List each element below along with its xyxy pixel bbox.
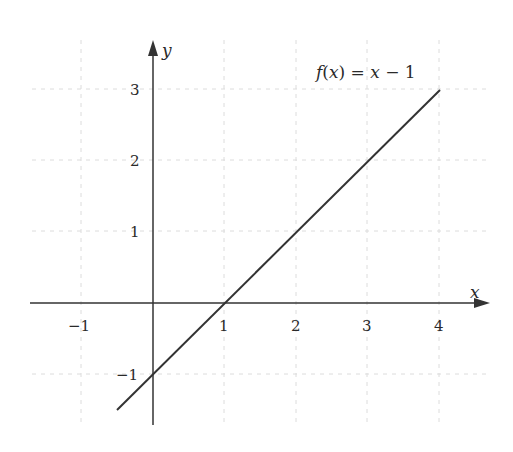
x-tick-label: 4: [434, 317, 444, 335]
x-axis-label: x: [470, 282, 480, 302]
y-axis-label: y: [161, 40, 172, 60]
y-axis-arrow-icon: [148, 40, 158, 56]
function-line: [117, 90, 440, 410]
y-tick-label: 1: [130, 223, 140, 241]
function-label: f(x) = x − 1: [314, 62, 416, 82]
y-tick-label: 2: [130, 152, 140, 170]
x-tick-label: 3: [362, 317, 372, 335]
y-tick-label: 3: [130, 81, 140, 99]
y-tick-label: −1: [116, 366, 138, 384]
x-tick-label: 2: [291, 317, 301, 335]
function-graph: x y f(x) = x − 1 −1 1 2 3 4 3 2 1 −1: [0, 0, 513, 452]
x-axis: [30, 298, 490, 308]
grid: [32, 40, 490, 425]
y-axis: [148, 40, 158, 425]
x-tick-label: 1: [219, 317, 229, 335]
x-tick-label: −1: [68, 317, 90, 335]
